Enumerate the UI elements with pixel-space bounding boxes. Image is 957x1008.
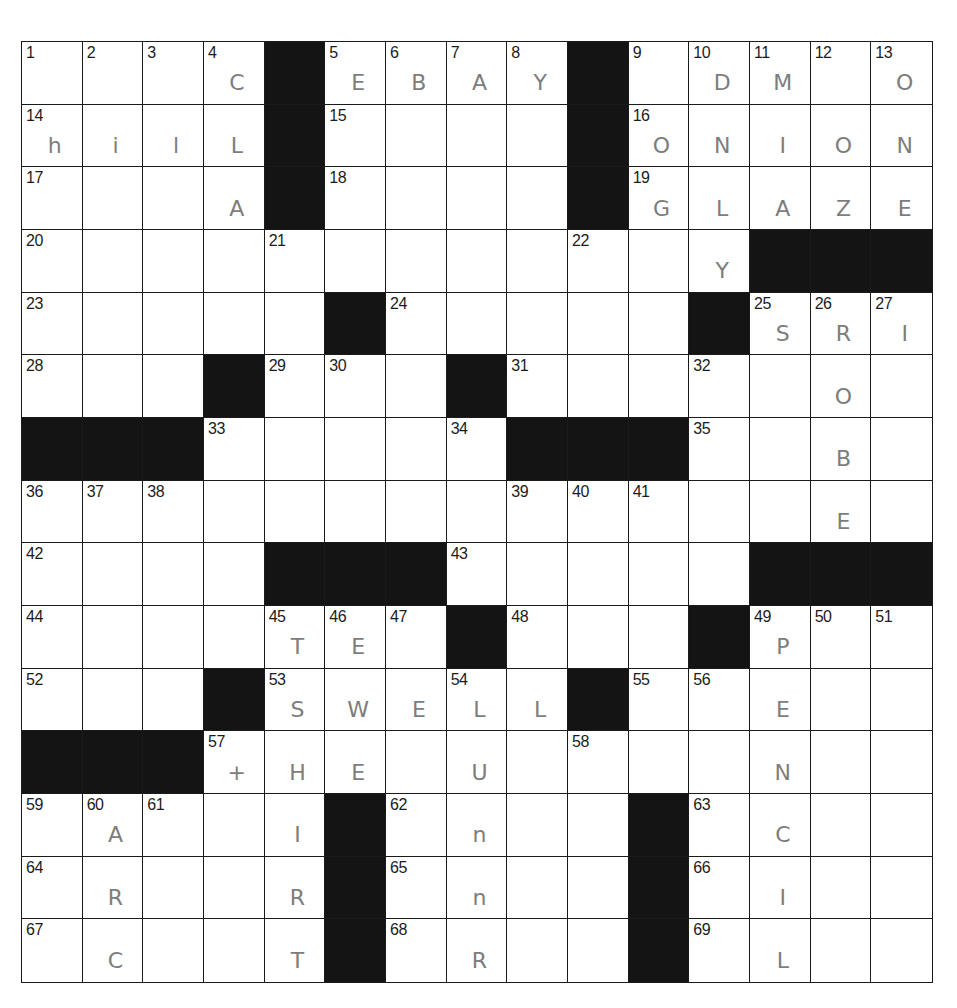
crossword-cell[interactable]: 42	[22, 543, 83, 606]
crossword-cell[interactable]: 68	[386, 919, 447, 982]
crossword-cell[interactable]: 18	[325, 167, 386, 230]
crossword-cell[interactable]: E	[811, 481, 872, 544]
crossword-cell[interactable]	[447, 230, 508, 293]
crossword-cell[interactable]	[689, 731, 750, 794]
crossword-cell[interactable]	[507, 230, 568, 293]
crossword-cell[interactable]	[871, 481, 932, 544]
crossword-cell[interactable]	[386, 481, 447, 544]
crossword-cell[interactable]: T	[265, 919, 326, 982]
crossword-cell[interactable]	[143, 919, 204, 982]
crossword-cell[interactable]: E	[325, 731, 386, 794]
crossword-cell[interactable]: 37	[83, 481, 144, 544]
crossword-cell[interactable]: 58	[568, 731, 629, 794]
crossword-cell[interactable]	[204, 230, 265, 293]
crossword-cell[interactable]	[143, 167, 204, 230]
crossword-cell[interactable]: R	[265, 857, 326, 920]
crossword-cell[interactable]: 36	[22, 481, 83, 544]
crossword-cell[interactable]	[811, 669, 872, 732]
crossword-cell[interactable]	[871, 794, 932, 857]
crossword-cell[interactable]	[143, 355, 204, 418]
crossword-cell[interactable]	[386, 105, 447, 168]
crossword-cell[interactable]: C	[750, 794, 811, 857]
crossword-cell[interactable]	[507, 543, 568, 606]
crossword-cell[interactable]: 15	[325, 105, 386, 168]
crossword-cell[interactable]: R	[83, 857, 144, 920]
crossword-cell[interactable]	[629, 543, 690, 606]
crossword-cell[interactable]: 30	[325, 355, 386, 418]
crossword-cell[interactable]	[629, 731, 690, 794]
crossword-cell[interactable]: 8Y	[507, 42, 568, 105]
crossword-cell[interactable]	[204, 293, 265, 356]
crossword-cell[interactable]	[507, 731, 568, 794]
crossword-cell[interactable]: 21	[265, 230, 326, 293]
crossword-cell[interactable]: 4C	[204, 42, 265, 105]
crossword-cell[interactable]: A	[750, 167, 811, 230]
crossword-cell[interactable]	[204, 919, 265, 982]
crossword-cell[interactable]: L	[507, 669, 568, 732]
crossword-cell[interactable]	[325, 481, 386, 544]
crossword-cell[interactable]: 3	[143, 42, 204, 105]
crossword-cell[interactable]: 51	[871, 606, 932, 669]
crossword-cell[interactable]	[143, 230, 204, 293]
crossword-cell[interactable]: N	[689, 105, 750, 168]
crossword-cell[interactable]	[871, 669, 932, 732]
crossword-cell[interactable]	[507, 167, 568, 230]
crossword-cell[interactable]: 63	[689, 794, 750, 857]
crossword-cell[interactable]: 62	[386, 794, 447, 857]
crossword-cell[interactable]: 5E	[325, 42, 386, 105]
crossword-cell[interactable]: 17	[22, 167, 83, 230]
crossword-cell[interactable]: H	[265, 731, 326, 794]
crossword-cell[interactable]	[204, 543, 265, 606]
crossword-cell[interactable]: 59	[22, 794, 83, 857]
crossword-cell[interactable]: I	[750, 105, 811, 168]
crossword-cell[interactable]: N	[750, 731, 811, 794]
crossword-cell[interactable]	[568, 355, 629, 418]
crossword-cell[interactable]	[507, 105, 568, 168]
crossword-cell[interactable]: 67	[22, 919, 83, 982]
crossword-cell[interactable]	[143, 293, 204, 356]
crossword-cell[interactable]	[447, 293, 508, 356]
crossword-cell[interactable]: L	[750, 919, 811, 982]
crossword-cell[interactable]	[143, 669, 204, 732]
crossword-cell[interactable]	[507, 919, 568, 982]
crossword-cell[interactable]: 6B	[386, 42, 447, 105]
crossword-cell[interactable]	[83, 606, 144, 669]
crossword-cell[interactable]	[871, 418, 932, 481]
crossword-cell[interactable]	[507, 293, 568, 356]
crossword-cell[interactable]: L	[204, 105, 265, 168]
crossword-cell[interactable]: 57+	[204, 731, 265, 794]
crossword-cell[interactable]	[83, 543, 144, 606]
crossword-cell[interactable]	[871, 355, 932, 418]
crossword-cell[interactable]	[871, 731, 932, 794]
crossword-cell[interactable]: 25S	[750, 293, 811, 356]
crossword-cell[interactable]: 23	[22, 293, 83, 356]
crossword-cell[interactable]	[507, 794, 568, 857]
crossword-cell[interactable]: 13O	[871, 42, 932, 105]
crossword-cell[interactable]: E	[871, 167, 932, 230]
crossword-cell[interactable]	[447, 167, 508, 230]
crossword-cell[interactable]	[325, 230, 386, 293]
crossword-cell[interactable]	[265, 293, 326, 356]
crossword-cell[interactable]	[750, 355, 811, 418]
crossword-cell[interactable]: 27I	[871, 293, 932, 356]
crossword-cell[interactable]: 40	[568, 481, 629, 544]
crossword-cell[interactable]: B	[811, 418, 872, 481]
crossword-cell[interactable]	[83, 669, 144, 732]
crossword-cell[interactable]: l	[143, 105, 204, 168]
crossword-cell[interactable]: 47	[386, 606, 447, 669]
crossword-cell[interactable]: 48	[507, 606, 568, 669]
crossword-cell[interactable]: 41	[629, 481, 690, 544]
crossword-cell[interactable]: U	[447, 731, 508, 794]
crossword-cell[interactable]	[689, 543, 750, 606]
crossword-cell[interactable]	[811, 794, 872, 857]
crossword-cell[interactable]	[629, 230, 690, 293]
crossword-cell[interactable]: 66	[689, 857, 750, 920]
crossword-cell[interactable]: 1	[22, 42, 83, 105]
crossword-cell[interactable]	[811, 857, 872, 920]
crossword-cell[interactable]: 10D	[689, 42, 750, 105]
crossword-cell[interactable]	[871, 919, 932, 982]
crossword-cell[interactable]	[811, 731, 872, 794]
crossword-cell[interactable]: n	[447, 857, 508, 920]
crossword-cell[interactable]: 45T	[265, 606, 326, 669]
crossword-cell[interactable]: C	[83, 919, 144, 982]
